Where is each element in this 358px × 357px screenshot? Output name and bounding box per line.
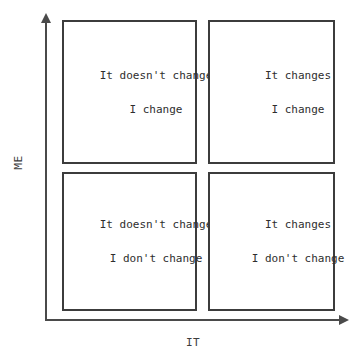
quadrant-bottom-right: It changes I don't change: [208, 172, 335, 311]
quadrant-bottom-left-line2: I don't change: [110, 252, 203, 265]
quadrant-bottom-left-line1: It doesn't change: [100, 218, 213, 231]
quadrant-grid: It doesn't change I change It changes I …: [62, 20, 335, 311]
quadrant-bottom-right-line2: I don't change: [252, 252, 345, 265]
quadrant-top-left-text: It doesn't change I change: [47, 50, 213, 135]
quadrant-top-right-line2: I change: [272, 103, 325, 116]
x-axis-arrow-icon: [339, 315, 349, 325]
quadrant-diagram: ME IT It doesn't change I change It chan…: [0, 0, 358, 357]
quadrant-bottom-left: It doesn't change I don't change: [62, 172, 197, 311]
quadrant-bottom-left-text: It doesn't change I don't change: [47, 199, 213, 284]
x-axis-label: IT: [45, 336, 341, 349]
y-axis-arrow-icon: [41, 13, 51, 23]
y-axis-label: ME: [12, 145, 25, 181]
x-axis-line: [45, 319, 341, 321]
quadrant-bottom-right-text: It changes I don't change: [199, 199, 345, 284]
quadrant-top-left-line1: It doesn't change: [100, 69, 213, 82]
quadrant-bottom-right-line1: It changes: [265, 218, 331, 231]
quadrant-top-left-line2: I change: [130, 103, 183, 116]
quadrant-top-right-text: It changes I change: [212, 50, 331, 135]
quadrant-top-left: It doesn't change I change: [62, 20, 197, 164]
quadrant-top-right: It changes I change: [208, 20, 335, 164]
quadrant-top-right-line1: It changes: [265, 69, 331, 82]
